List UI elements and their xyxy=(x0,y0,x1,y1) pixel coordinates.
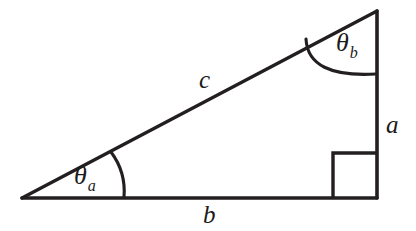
angle-a-label: θa xyxy=(74,163,95,189)
hypotenuse-label: c xyxy=(199,67,210,92)
angle-b-label: θb xyxy=(336,30,357,56)
horizontal-leg-label: b xyxy=(203,202,216,227)
right-triangle-diagram: c a b θa θb xyxy=(0,0,416,231)
vertical-leg-label: a xyxy=(386,112,399,137)
angle-a-symbol: θ xyxy=(74,161,87,190)
angle-a-subscript: a xyxy=(88,177,96,194)
angle-arc-a-icon xyxy=(111,152,124,197)
angle-b-subscript: b xyxy=(350,44,358,61)
right-angle-marker xyxy=(333,153,377,198)
angle-b-symbol: θ xyxy=(336,28,349,57)
